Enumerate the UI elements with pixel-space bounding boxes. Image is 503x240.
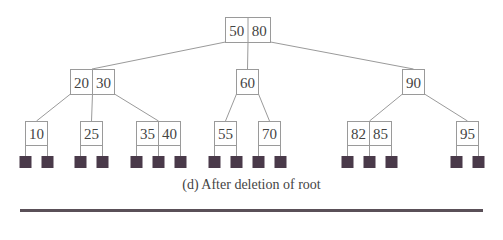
leaf-key: 70 bbox=[262, 126, 277, 142]
null-leaf-square bbox=[231, 156, 243, 168]
node-key: 90 bbox=[406, 75, 421, 91]
root-edge bbox=[271, 42, 414, 69]
leaf-key: 40 bbox=[162, 126, 177, 142]
null-leaf-square bbox=[253, 156, 265, 168]
leaf-key: 82 bbox=[351, 126, 366, 142]
null-leaf-square bbox=[451, 156, 463, 168]
node-key: 20 bbox=[74, 75, 89, 91]
leaf-key: 85 bbox=[373, 126, 388, 142]
leaf-key: 95 bbox=[460, 126, 475, 142]
leaf-key: 10 bbox=[29, 126, 44, 142]
null-leaf-square bbox=[473, 156, 485, 168]
null-leaf-square bbox=[75, 156, 87, 168]
root-edge bbox=[248, 42, 249, 69]
figure-caption: (d) After deletion of root bbox=[0, 177, 503, 193]
null-leaf-square bbox=[20, 156, 32, 168]
null-leaf-square bbox=[131, 156, 143, 168]
null-leaf-square bbox=[342, 156, 354, 168]
child-edge bbox=[425, 94, 468, 121]
leaf-key: 35 bbox=[140, 126, 155, 142]
null-leaf-square bbox=[209, 156, 221, 168]
node-key: 30 bbox=[96, 75, 111, 91]
child-edge bbox=[370, 94, 403, 121]
separator-rule bbox=[20, 209, 483, 212]
null-leaf-square bbox=[275, 156, 287, 168]
child-edge bbox=[259, 94, 270, 121]
null-leaf-square bbox=[153, 156, 165, 168]
null-leaf-square bbox=[42, 156, 54, 168]
child-edge bbox=[226, 94, 237, 121]
root-edge bbox=[92, 42, 226, 69]
child-edge bbox=[37, 94, 71, 121]
node-key: 50 bbox=[229, 23, 244, 39]
leaf-key: 25 bbox=[84, 126, 99, 142]
null-leaf-square bbox=[97, 156, 109, 168]
leaf-key: 55 bbox=[218, 126, 233, 142]
null-leaf-square bbox=[386, 156, 398, 168]
node-key: 60 bbox=[240, 75, 255, 91]
null-leaf-square bbox=[364, 156, 376, 168]
node-key: 80 bbox=[252, 23, 267, 39]
null-leaf-square bbox=[175, 156, 187, 168]
child-edge bbox=[115, 94, 159, 121]
child-edge bbox=[92, 94, 93, 121]
